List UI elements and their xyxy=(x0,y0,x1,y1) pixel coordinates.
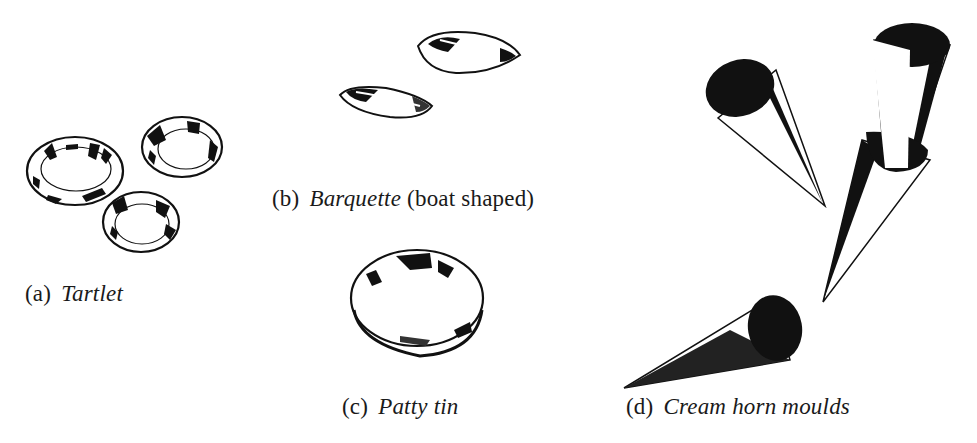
caption-cream-horn-moulds: (d)Cream horn moulds xyxy=(626,394,850,420)
barquette-tin-icon xyxy=(340,87,432,118)
caption-barquette: (b)Barquette(boat shaped) xyxy=(272,186,534,212)
tartlet-tins-illustration xyxy=(0,0,260,443)
caption-letter: (c) xyxy=(342,394,368,419)
tartlet-tin-icon xyxy=(142,117,222,177)
panel-patty-tin: (c)Patty tin xyxy=(330,240,550,443)
tartlet-tin-icon xyxy=(103,192,179,252)
caption-name: Tartlet xyxy=(61,281,123,306)
panel-tartlet: (a)Tartlet xyxy=(0,0,260,443)
cream-horn-mould-icon xyxy=(698,50,825,206)
caption-letter: (d) xyxy=(626,394,653,419)
caption-name: Patty tin xyxy=(378,394,458,419)
patty-tin-icon xyxy=(351,250,483,356)
caption-name: Cream horn moulds xyxy=(663,394,850,419)
caption-letter: (a) xyxy=(25,281,51,306)
caption-note: (boat shaped) xyxy=(407,186,534,211)
tartlet-tin-icon xyxy=(27,137,123,205)
panel-barquette: (b)Barquette(boat shaped) xyxy=(260,0,590,240)
caption-letter: (b) xyxy=(272,186,299,211)
caption-name: Barquette xyxy=(309,186,401,211)
caption-tartlet: (a)Tartlet xyxy=(25,281,123,307)
caption-patty-tin: (c)Patty tin xyxy=(342,394,459,420)
cream-horn-mould-icon xyxy=(624,291,807,388)
panel-cream-horn-moulds: (d)Cream horn moulds xyxy=(610,0,977,443)
barquette-tin-icon xyxy=(418,32,520,73)
cream-horn-moulds-illustration xyxy=(610,0,977,443)
